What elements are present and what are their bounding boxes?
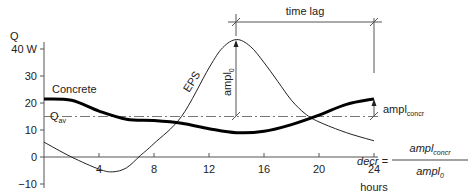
x-axis-label: hours [360, 181, 388, 193]
x-ticks: 4812162024 [96, 153, 380, 175]
svg-text:ampl0: ampl0 [221, 68, 235, 96]
concrete-label: Concrete [52, 83, 97, 95]
svg-text:ampl0: ampl0 [416, 165, 444, 179]
x-tick-label: 20 [313, 163, 325, 175]
ampl-0-annotation: ampl0 [221, 40, 240, 120]
svg-text:decr =: decr = [357, 155, 388, 167]
y-tick-label: 20 [25, 97, 37, 109]
y-tick-label: 10 [25, 124, 37, 136]
ampl-concr-annotation: amplconcr [370, 99, 425, 120]
svg-text:time lag: time lag [286, 5, 325, 17]
q-av-label: Qav [50, 110, 66, 124]
decrement-chart: −10010203040 W 4812162024 Q hours Qav Co… [0, 0, 476, 195]
time-lag-annotation: time lag [228, 5, 382, 73]
y-tick-label: 30 [25, 70, 37, 82]
y-tick-label: 0 [31, 151, 37, 163]
eps-label: EPS [181, 69, 203, 94]
x-tick-label: 12 [203, 163, 215, 175]
concrete-curve [44, 99, 374, 133]
y-axis-label: Q [10, 30, 19, 42]
x-tick-label: 8 [151, 163, 157, 175]
y-ticks: −10010203040 W [11, 43, 44, 190]
y-tick-label: −10 [18, 178, 37, 190]
y-tick-label: 40 W [11, 43, 37, 55]
eps-curve [44, 40, 374, 172]
svg-text:amplconcr: amplconcr [410, 142, 452, 156]
x-tick-label: 16 [258, 163, 270, 175]
svg-text:amplconcr: amplconcr [383, 103, 425, 117]
